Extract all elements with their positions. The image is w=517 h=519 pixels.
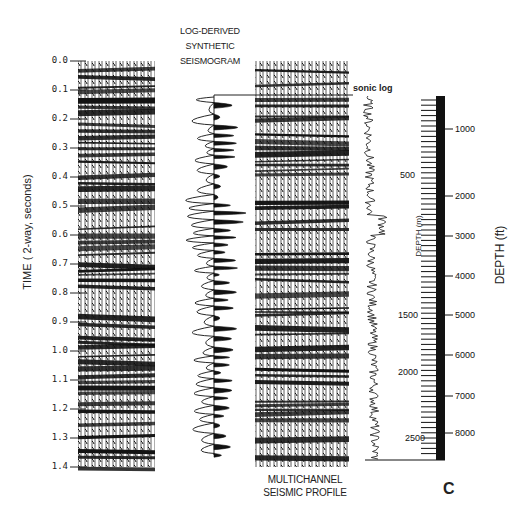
- multichannel-seismic-profile: [255, 61, 349, 467]
- figure-graphics: [0, 0, 517, 519]
- depth-scale-bar: [421, 96, 453, 460]
- seismic-section-left: [78, 61, 155, 471]
- sonic-log-curve: [364, 96, 446, 460]
